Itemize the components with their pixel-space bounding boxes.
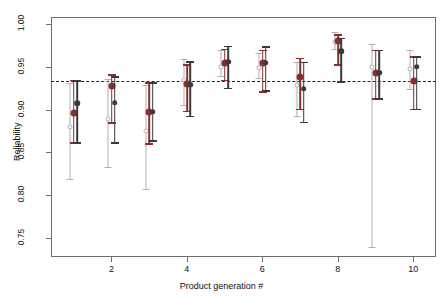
x-tick-label: 2	[91, 264, 131, 274]
error-bar-stem	[300, 58, 302, 109]
x-tick-mark	[111, 257, 112, 262]
y-tick-mark	[46, 67, 51, 68]
y-tick-label: 0.80	[16, 173, 26, 215]
error-bar-lower-cap	[293, 116, 300, 117]
error-bar-stem	[114, 76, 116, 142]
error-bar-upper-cap	[407, 50, 414, 51]
chart-root: Reliability Product generation # 0.750.8…	[0, 0, 443, 307]
error-bar-upper-cap	[334, 34, 342, 36]
x-axis-title-text: Product generation #	[0, 281, 443, 291]
x-tick-label: 8	[318, 264, 358, 274]
data-point	[225, 59, 231, 65]
error-bar-upper-cap	[262, 46, 270, 48]
error-bar-upper-cap	[73, 80, 81, 82]
y-tick-mark	[46, 24, 51, 25]
data-point	[301, 86, 307, 92]
error-bar-upper-cap	[186, 61, 194, 63]
error-bar-lower-cap	[375, 98, 383, 100]
y-tick-mark	[46, 238, 51, 239]
x-tick-mark	[187, 257, 188, 262]
y-tick-mark	[46, 152, 51, 153]
x-tick-label: 6	[242, 264, 282, 274]
error-bar-lower-cap	[111, 142, 119, 144]
error-bar-stem	[76, 80, 78, 142]
error-bar-upper-cap	[337, 38, 345, 40]
error-bar-upper-cap	[111, 76, 119, 78]
error-bar-lower-cap	[73, 142, 81, 144]
error-bar-lower-cap	[186, 116, 194, 118]
error-bar-upper-cap	[296, 58, 304, 60]
error-bar-stem	[145, 85, 146, 189]
error-bar-lower-cap	[142, 189, 149, 190]
error-bar-lower-cap	[413, 109, 421, 111]
x-tick-mark	[413, 257, 414, 262]
error-bar-lower-cap	[224, 88, 232, 90]
error-bar-stem	[303, 62, 305, 122]
y-tick-label: 0.95	[16, 45, 26, 87]
error-bar-lower-cap	[337, 81, 345, 83]
error-bar-stem	[186, 64, 188, 111]
y-tick-mark	[46, 195, 51, 196]
error-bar-stem	[111, 74, 113, 122]
y-tick-label: 0.75	[16, 216, 26, 258]
error-bar-upper-cap	[413, 56, 421, 58]
error-bar-lower-cap	[145, 143, 153, 145]
error-bar-stem	[189, 61, 191, 115]
error-bar-upper-cap	[375, 50, 383, 52]
y-tick-label: 0.85	[16, 130, 26, 172]
x-tick-mark	[262, 257, 263, 262]
data-point	[187, 82, 193, 88]
error-bar-lower-cap	[300, 122, 308, 124]
data-point	[74, 100, 80, 106]
error-bar-lower-cap	[149, 140, 157, 142]
error-bar-upper-cap	[224, 46, 232, 48]
y-tick-label: 1.00	[16, 2, 26, 44]
x-tick-label: 4	[167, 264, 207, 274]
data-point	[150, 109, 156, 115]
error-bar-lower-cap	[262, 90, 270, 92]
data-point	[376, 70, 382, 76]
error-bar-stem	[265, 46, 267, 90]
y-tick-label: 0.90	[16, 88, 26, 130]
error-bar-lower-cap	[369, 247, 376, 248]
data-point	[112, 100, 118, 106]
error-bar-lower-cap	[67, 179, 74, 180]
error-bar-stem	[227, 46, 229, 88]
error-bar-lower-cap	[105, 167, 112, 168]
error-bar-stem	[340, 38, 342, 82]
error-bar-stem	[70, 83, 71, 180]
error-bar-upper-cap	[369, 44, 376, 45]
error-bar-stem	[262, 50, 264, 92]
y-tick-mark	[46, 110, 51, 111]
error-bar-upper-cap	[300, 62, 308, 64]
data-point	[263, 60, 269, 66]
error-bar-upper-cap	[149, 82, 157, 84]
x-tick-label: 10	[393, 264, 433, 274]
data-point	[414, 64, 420, 70]
x-tick-mark	[338, 257, 339, 262]
data-point	[338, 48, 344, 54]
